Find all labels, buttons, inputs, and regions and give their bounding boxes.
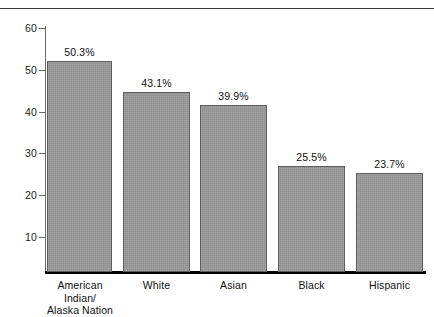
y-tick-label-50: 50 — [1, 65, 37, 75]
bar-american-indian-alaska-nation[interactable] — [47, 61, 112, 272]
y-tick-mark-40 — [39, 112, 46, 113]
y-tick-label-20-wrap: 20 — [0, 190, 37, 200]
x-category-label-black: Black — [278, 279, 345, 292]
bar-value-label-hispanic: 23.7% — [356, 159, 423, 170]
y-tick-label-40-wrap: 40 — [0, 107, 37, 117]
y-tick-label-10: 10 — [1, 232, 37, 242]
y-tick-mark-10 — [39, 237, 46, 238]
y-tick-label-60-wrap: 60 — [0, 23, 37, 33]
x-category-label-hispanic: Hispanic — [356, 279, 423, 292]
y-axis-line — [45, 26, 46, 272]
x-category-label-line-1: Asian — [200, 279, 267, 292]
bar-white[interactable] — [123, 92, 190, 272]
x-category-label-white: White — [123, 279, 190, 292]
top-divider-rule — [0, 8, 434, 9]
y-tick-label-60: 60 — [1, 23, 37, 33]
bar-value-label-black: 25.5% — [278, 152, 345, 163]
x-category-label-line-1: Hispanic — [356, 279, 423, 292]
y-tick-label-30-wrap: 30 — [0, 148, 37, 158]
x-category-label-american-indian-alaska-nation: American Indian/ Alaska Nation — [40, 279, 120, 317]
x-category-label-line-2: Alaska Nation — [40, 304, 120, 317]
x-category-label-line-1: Black — [278, 279, 345, 292]
y-tick-label-20: 20 — [1, 190, 37, 200]
bar-black[interactable] — [278, 166, 345, 272]
bar-value-label-white: 43.1% — [123, 78, 190, 89]
y-tick-label-10-wrap: 10 — [0, 232, 37, 242]
y-tick-mark-30 — [39, 153, 46, 154]
bar-value-label-american-indian-alaska-nation: 50.3% — [47, 47, 112, 58]
x-category-label-asian: Asian — [200, 279, 267, 292]
x-category-label-line-1: American Indian/ — [40, 279, 120, 304]
bar-value-label-asian: 39.9% — [200, 91, 267, 102]
bar-hispanic[interactable] — [356, 173, 423, 272]
bar-asian[interactable] — [200, 105, 267, 272]
y-tick-label-50-wrap: 50 — [0, 65, 37, 75]
y-tick-label-30: 30 — [1, 148, 37, 158]
y-tick-label-40: 40 — [1, 107, 37, 117]
y-tick-mark-60 — [39, 28, 46, 29]
y-tick-mark-20 — [39, 195, 46, 196]
x-category-label-line-1: White — [123, 279, 190, 292]
y-tick-mark-50 — [39, 70, 46, 71]
